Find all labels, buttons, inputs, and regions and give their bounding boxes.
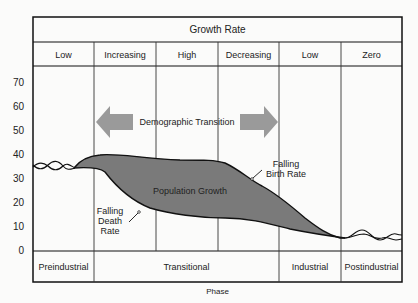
rate-col-6: Zero [341, 50, 402, 60]
y-tick-10: 10 [4, 221, 24, 232]
rate-col-2: Increasing [94, 50, 156, 60]
death-rate-label-2: Death [90, 216, 130, 226]
rate-col-1: Low [33, 50, 94, 60]
rate-col-3: High [156, 50, 218, 60]
phase-axis-label: Phase [33, 287, 402, 297]
phase-preindustrial: Preindustrial [33, 262, 94, 272]
preindustrial-death-wave [33, 161, 75, 169]
postindustrial-death-wave [345, 234, 402, 240]
death-rate-label-3: Rate [90, 226, 130, 236]
right-arrow-icon [240, 106, 278, 138]
death-pointer [129, 212, 139, 222]
diagram-canvas [0, 0, 418, 303]
y-tick-70: 70 [4, 77, 24, 88]
left-arrow-icon [96, 106, 133, 138]
population-growth-label: Population Growth [140, 186, 240, 196]
phase-transitional: Transitional [94, 262, 279, 272]
birth-rate-label-1: Falling [256, 159, 316, 169]
postindustrial-birth-wave [345, 230, 402, 240]
y-tick-60: 60 [4, 101, 24, 112]
y-tick-30: 30 [4, 173, 24, 184]
death-rate-label-1: Falling [90, 206, 130, 216]
rate-col-5: Low [279, 50, 341, 60]
y-tick-0: 0 [4, 245, 24, 256]
demographic-transition-label: Demographic Transition [136, 117, 238, 127]
phase-industrial: Industrial [279, 262, 341, 272]
y-tick-40: 40 [4, 149, 24, 160]
birth-rate-label-2: Birth Rate [256, 169, 316, 179]
y-tick-50: 50 [4, 125, 24, 136]
rate-col-4: Decreasing [218, 50, 279, 60]
phase-postindustrial: Postindustrial [341, 262, 402, 272]
y-tick-20: 20 [4, 197, 24, 208]
header-title: Growth Rate [33, 25, 402, 35]
